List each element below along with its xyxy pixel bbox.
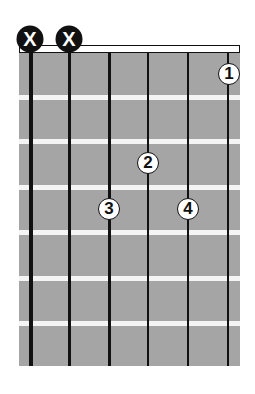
fret-line-5 xyxy=(19,276,240,281)
mute-marker-string-6: X xyxy=(17,26,44,53)
fret-line-6 xyxy=(19,321,240,326)
finger-dot-4: 4 xyxy=(177,198,199,220)
mute-marker-string-5: X xyxy=(56,26,83,53)
nut xyxy=(19,45,240,53)
fret-line-2 xyxy=(19,139,240,144)
string-3 xyxy=(147,52,149,366)
finger-dot-2: 2 xyxy=(137,152,159,174)
fret-line-1 xyxy=(19,95,240,100)
finger-dot-1: 1 xyxy=(218,63,240,85)
fret-line-3 xyxy=(19,185,240,190)
fret-line-4 xyxy=(19,230,240,235)
string-1 xyxy=(227,52,229,366)
string-5 xyxy=(68,52,71,366)
finger-dot-3: 3 xyxy=(98,198,120,220)
string-6 xyxy=(29,52,33,366)
